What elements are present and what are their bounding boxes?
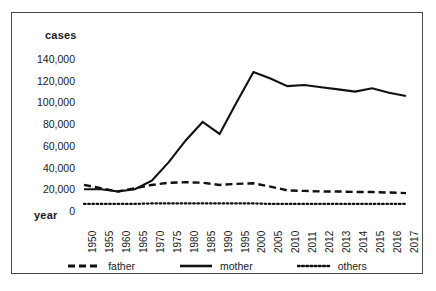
- x-tick-1975: 1975: [173, 231, 183, 253]
- x-tick-2016: 2016: [393, 231, 403, 253]
- series-lines: [81, 59, 409, 211]
- x-tick-2017: 2017: [410, 231, 420, 253]
- x-tick-1965: 1965: [139, 231, 149, 253]
- x-tick-2012: 2012: [325, 231, 335, 253]
- legend-swatch-dotted-icon: [297, 262, 331, 270]
- chart-frame: cases year 020,00040,00060,00080,000100,…: [11, 12, 423, 274]
- line-series-father: [84, 182, 406, 193]
- legend-swatch-dashed-icon: [67, 262, 101, 270]
- line-series-others: [84, 203, 406, 204]
- x-tick-2010: 2010: [291, 231, 301, 253]
- x-tick-1955: 1955: [105, 231, 115, 253]
- legend-item-others[interactable]: others: [297, 260, 367, 272]
- y-tick-140000: 140,000: [21, 54, 75, 64]
- x-tick-2014: 2014: [359, 231, 369, 253]
- x-tick-2013: 2013: [342, 231, 352, 253]
- line-series-mother: [84, 72, 406, 191]
- legend-label-father: father: [108, 260, 135, 272]
- x-tick-1985: 1985: [207, 231, 217, 253]
- x-tick-1990: 1990: [224, 231, 234, 253]
- x-tick-2015: 2015: [376, 231, 386, 253]
- legend-item-mother[interactable]: mother: [179, 260, 253, 272]
- y-tick-120000: 120,000: [21, 76, 75, 86]
- x-tick-1950: 1950: [88, 231, 98, 253]
- x-axis-tick-labels: 1950195519601965197019751980198519901995…: [81, 213, 409, 257]
- x-tick-1980: 1980: [190, 231, 200, 253]
- x-tick-1960: 1960: [122, 231, 132, 253]
- y-tick-40000: 40,000: [21, 163, 75, 173]
- y-tick-60000: 60,000: [21, 141, 75, 151]
- y-tick-100000: 100,000: [21, 97, 75, 107]
- x-tick-1995: 1995: [241, 231, 251, 253]
- legend-label-others: others: [338, 260, 367, 272]
- x-tick-2005: 2005: [274, 231, 284, 253]
- x-tick-1970: 1970: [156, 231, 166, 253]
- y-axis-tick-labels: 020,00040,00060,00080,000100,000120,0001…: [21, 13, 75, 275]
- x-tick-2000: 2000: [257, 231, 267, 253]
- y-tick-0: 0: [21, 206, 75, 216]
- plot-area: [81, 59, 409, 211]
- y-tick-80000: 80,000: [21, 119, 75, 129]
- legend-label-mother: mother: [220, 260, 253, 272]
- legend-swatch-solid-icon: [179, 262, 213, 270]
- x-tick-2011: 2011: [308, 231, 318, 253]
- y-tick-20000: 20,000: [21, 184, 75, 194]
- chart-legend: fathermotherothers: [12, 260, 422, 272]
- legend-item-father[interactable]: father: [67, 260, 135, 272]
